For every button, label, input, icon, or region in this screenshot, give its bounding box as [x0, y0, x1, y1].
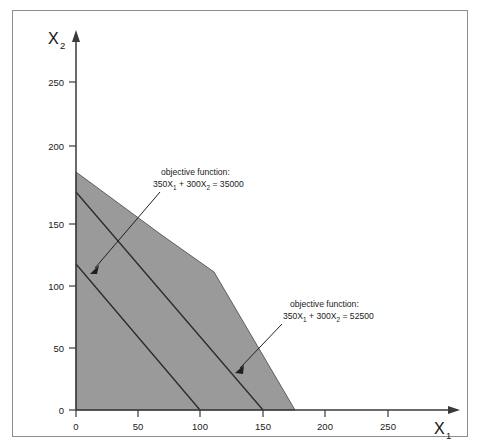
- x-tick-label-0: 0: [73, 421, 78, 432]
- y-axis-label-group: X 2: [48, 30, 65, 51]
- x-tick-label-50: 50: [133, 421, 144, 432]
- y-tick-label-150: 150: [48, 219, 64, 230]
- annotation-52500-line2: 350X1 + 300X2 = 52500: [283, 311, 374, 323]
- y-tick-marks: [69, 82, 76, 410]
- annotation-52500-mid: + 300X: [307, 311, 337, 321]
- chart-canvas: 0 50 100 150 200 250 0 50 100 150 200 25…: [0, 0, 482, 448]
- y-tick-labels: 0 50 100 150 200 250: [48, 77, 64, 416]
- y-axis-arrowhead: [72, 30, 80, 42]
- annotation-35000-line2: 350X1 + 300X2 = 35000: [153, 179, 244, 191]
- x-tick-labels: 0 50 100 150 200 250: [73, 421, 396, 432]
- x-tick-marks: [76, 410, 388, 417]
- x-axis-arrowhead: [448, 406, 460, 414]
- y-tick-label-250: 250: [48, 77, 64, 88]
- annotation-52500-line1: objective function:: [290, 299, 359, 309]
- y-axis-label-subscript: 2: [60, 40, 65, 51]
- y-axis-label: X: [48, 30, 59, 47]
- annotation-35000-line1: objective function:: [161, 167, 230, 177]
- x-tick-label-150: 150: [255, 421, 271, 432]
- feasible-region-group: [76, 172, 295, 410]
- chart-figure: 0 50 100 150 200 250 0 50 100 150 200 25…: [0, 0, 482, 448]
- x-axis-label-subscript: 1: [446, 430, 451, 441]
- feasible-region-polygon: [76, 172, 295, 410]
- annotation-52500-prefix: 350X: [283, 311, 303, 321]
- x-tick-label-250: 250: [380, 421, 396, 432]
- annotation-35000-suffix: = 35000: [210, 179, 244, 189]
- x-axis-label-group: X 1: [434, 420, 451, 441]
- x-axis-label: X: [434, 420, 445, 437]
- annotation-35000-mid: + 300X: [177, 179, 207, 189]
- annotation-35000-prefix: 350X: [153, 179, 173, 189]
- y-tick-label-50: 50: [53, 343, 64, 354]
- y-tick-label-0: 0: [59, 405, 64, 416]
- x-tick-label-100: 100: [192, 421, 208, 432]
- y-tick-label-200: 200: [48, 141, 64, 152]
- annotation-52500-suffix: = 52500: [340, 311, 374, 321]
- x-tick-label-200: 200: [317, 421, 333, 432]
- y-tick-label-100: 100: [48, 281, 64, 292]
